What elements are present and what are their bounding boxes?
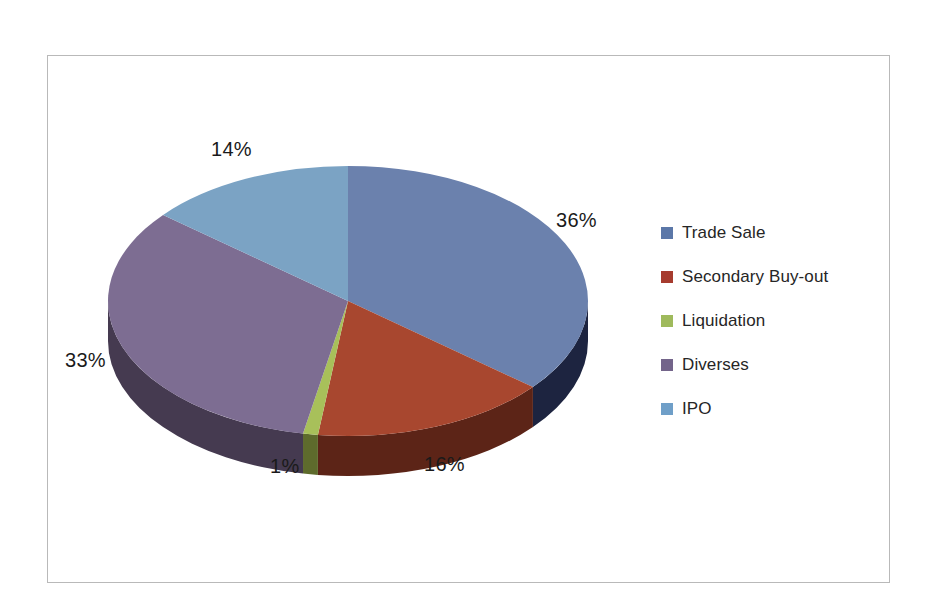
legend-item-liquidation[interactable]: Liquidation xyxy=(661,299,886,343)
legend-swatch-icon xyxy=(661,271,673,283)
data-label-diverses: 33% xyxy=(65,349,106,372)
pie-side-liquidation xyxy=(303,434,318,475)
legend-item-diverses[interactable]: Diverses xyxy=(661,343,886,387)
chart-legend: Trade Sale Secondary Buy-out Liquidation… xyxy=(661,211,886,431)
chart-frame: 36% 16% 1% 33% 14% Trade Sale Secondary … xyxy=(47,55,890,583)
legend-item-trade-sale[interactable]: Trade Sale xyxy=(661,211,886,255)
legend-label: Secondary Buy-out xyxy=(682,267,828,287)
data-label-liquidation: 1% xyxy=(270,455,300,478)
data-label-secondary-buyout: 16% xyxy=(424,453,465,476)
data-label-trade-sale: 36% xyxy=(556,209,597,232)
legend-label: IPO xyxy=(682,399,712,419)
legend-label: Trade Sale xyxy=(682,223,766,243)
pie-chart-3d xyxy=(48,56,668,526)
legend-label: Diverses xyxy=(682,355,749,375)
legend-label: Liquidation xyxy=(682,311,765,331)
legend-swatch-icon xyxy=(661,359,673,371)
legend-swatch-icon xyxy=(661,403,673,415)
data-label-ipo: 14% xyxy=(211,138,252,161)
legend-item-ipo[interactable]: IPO xyxy=(661,387,886,431)
legend-swatch-icon xyxy=(661,315,673,327)
plot-area: 36% 16% 1% 33% 14% Trade Sale Secondary … xyxy=(48,56,891,584)
pie-top-surface xyxy=(108,166,588,436)
legend-swatch-icon xyxy=(661,227,673,239)
legend-item-secondary-buyout[interactable]: Secondary Buy-out xyxy=(661,255,886,299)
